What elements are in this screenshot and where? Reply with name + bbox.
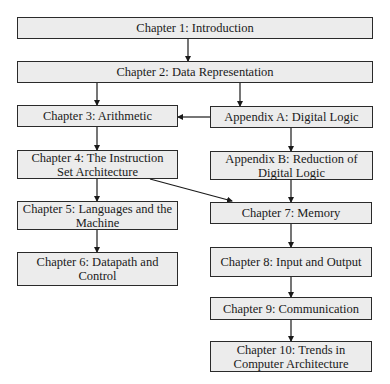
node-label: Chapter 4: The Instruction Set Architect… [22,151,173,179]
node-chapter-8: Chapter 8: Input and Output [210,247,372,277]
node-chapter-5: Chapter 5: Languages and the Machine [17,201,178,230]
node-chapter-7: Chapter 7: Memory [210,202,372,224]
node-label: Chapter 1: Introduction [136,21,253,35]
node-chapter-6: Chapter 6: Datapath and Control [17,252,178,286]
connector-arrows [0,0,390,384]
node-label: Chapter 3: Arithmetic [43,109,152,123]
node-chapter-4: Chapter 4: The Instruction Set Architect… [17,150,178,179]
node-chapter-1: Chapter 1: Introduction [17,17,373,39]
node-label: Appendix B: Reduction of Digital Logic [215,152,368,180]
arrow-ch4-ch7 [150,179,232,201]
node-chapter-9: Chapter 9: Communication [210,297,372,320]
node-chapter-10: Chapter 10: Trends in Computer Architect… [210,341,372,372]
node-chapter-3: Chapter 3: Arithmetic [17,105,178,127]
node-label: Chapter 5: Languages and the Machine [22,202,173,230]
node-label: Chapter 8: Input and Output [221,255,362,269]
node-label: Chapter 2: Data Representation [116,65,273,79]
node-label: Appendix A: Digital Logic [224,110,358,124]
node-chapter-2: Chapter 2: Data Representation [17,61,373,83]
node-label: Chapter 6: Datapath and Control [22,255,173,283]
node-label: Chapter 7: Memory [242,206,341,220]
node-label: Chapter 10: Trends in Computer Architect… [215,343,367,371]
node-appendix-a: Appendix A: Digital Logic [210,106,373,128]
node-label: Chapter 9: Communication [223,302,359,316]
node-appendix-b: Appendix B: Reduction of Digital Logic [210,151,373,180]
